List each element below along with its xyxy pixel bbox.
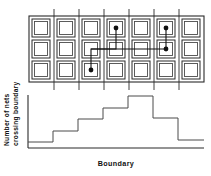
grid-cell-r2c7 bbox=[182, 40, 200, 58]
grid-cell-r3c2 bbox=[57, 61, 75, 79]
grid-cell-r3c4 bbox=[107, 61, 125, 79]
grid-cell-r1c3 bbox=[82, 19, 100, 37]
histogram-step-outline bbox=[28, 96, 204, 142]
histogram-y-axis-label: Number of nets crossing boundary bbox=[3, 82, 20, 146]
grid-cell-r3c6 bbox=[157, 61, 175, 79]
net-wire-2 bbox=[91, 28, 166, 49]
figure-root: Number of nets crossing boundary Boundar… bbox=[0, 0, 211, 176]
net-terminal-a bbox=[114, 26, 119, 31]
grid-cell-r1c5 bbox=[132, 19, 150, 37]
grid-cell-r3c1 bbox=[32, 61, 50, 79]
nets-group bbox=[89, 26, 169, 73]
net-terminal-b bbox=[89, 68, 94, 73]
histogram-x-axis-label: Boundary bbox=[98, 159, 134, 168]
grid-cell-r1c2 bbox=[57, 19, 75, 37]
placement-grid bbox=[29, 9, 204, 90]
grid-cell-r1c7 bbox=[182, 19, 200, 37]
grid-cell-r3c5 bbox=[132, 61, 150, 79]
y-axis-label-line-1: Number of nets bbox=[3, 93, 10, 146]
net-terminal-d bbox=[164, 47, 169, 52]
grid-cell-r2c1 bbox=[32, 40, 50, 58]
grid-cell-r2c2 bbox=[57, 40, 75, 58]
grid-cell-r1c1 bbox=[32, 19, 50, 37]
nets-crossing-boundary-figure: Number of nets crossing boundary Boundar… bbox=[0, 0, 211, 176]
net-terminal-c bbox=[164, 26, 169, 31]
y-axis-label-line-2: crossing boundary bbox=[12, 82, 20, 146]
boundary-crossing-histogram: Number of nets crossing boundary Boundar… bbox=[3, 82, 204, 168]
grid-cell-r3c7 bbox=[182, 61, 200, 79]
